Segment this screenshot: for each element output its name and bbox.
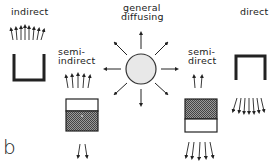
semi-direct-fixture (185, 76, 217, 159)
upward-arrows (66, 74, 90, 88)
label-semi-direct-line2: direct (188, 56, 216, 65)
diagram-graphics (0, 0, 272, 161)
downward-arrows (233, 98, 264, 113)
open-bottom-shade-icon (236, 56, 265, 80)
open-top-bowl-icon (14, 54, 44, 80)
general-diffusing-fixture (105, 33, 177, 105)
translucent-top-panel (66, 99, 98, 111)
semi-indirect-fixture (66, 74, 98, 157)
label-indirect: indirect (11, 7, 48, 16)
indirect-fixture (11, 26, 44, 80)
translucent-bottom-panel (185, 119, 217, 132)
upward-arrows (11, 26, 44, 40)
lighting-distribution-diagram: indirect general diffusing direct semi- … (0, 0, 272, 161)
downward-arrows (78, 144, 87, 157)
label-direct: direct (240, 7, 268, 16)
direct-fixture (233, 56, 265, 113)
upward-arrows (194, 76, 202, 88)
downward-arrows (186, 142, 213, 159)
label-semi-indirect-line2: indirect (58, 56, 95, 65)
diffuser-globe-icon (126, 54, 156, 84)
opaque-bottom-panel (66, 111, 98, 131)
opaque-top-panel (185, 99, 217, 119)
panel-label: b (3, 137, 16, 157)
label-diffusing: diffusing (121, 12, 164, 21)
